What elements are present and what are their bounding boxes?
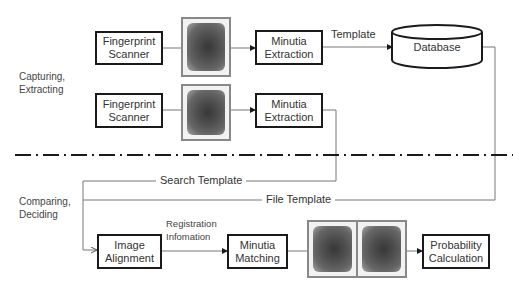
template-label: Template [327, 28, 380, 41]
search-template-label: Search Template [156, 174, 246, 187]
database-label: Database [392, 38, 482, 56]
image-alignment-box: Image Alignment [97, 234, 162, 269]
minutia-matching-box: Minutia Matching [227, 234, 288, 269]
fingerprint-pair-image-right [356, 220, 407, 278]
fingerprint-image-2 [181, 84, 231, 141]
section-label-capturing: Capturing, Extracting [19, 70, 65, 96]
section-label-comparing: Comparing, Deciding [19, 195, 71, 221]
file-template-label: File Template [262, 193, 335, 206]
minutia-extraction-box-1: Minutia Extraction [255, 30, 323, 65]
fingerprint-scanner-box-2: Fingerprint Scanner [95, 93, 163, 128]
fingerprint-scanner-box-1: Fingerprint Scanner [95, 31, 163, 65]
minutia-extraction-box-2: Minutia Extraction [255, 93, 323, 128]
fingerprint-image-1 [181, 17, 231, 77]
registration-information-label: Registration Infomation [166, 217, 217, 243]
fingerprint-pair-image-left [307, 220, 358, 278]
probability-calculation-box: Probability Calculation [422, 234, 490, 269]
